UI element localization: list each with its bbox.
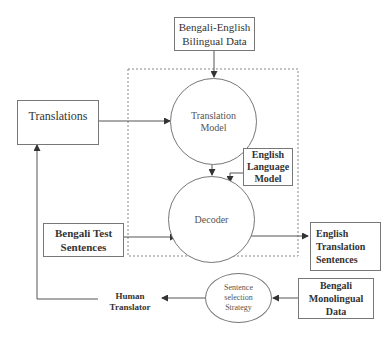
node-translations: Translations: [17, 100, 99, 145]
node-bilingual-data: Bengali-English Bilingual Data: [174, 17, 255, 51]
node-bengali-monolingual-data: Bengali Monolingual Data: [298, 278, 374, 319]
node-english-language-model: English Language Model: [243, 148, 293, 186]
node-sentence-selection-strategy: Sentence selection Strategy: [205, 273, 272, 323]
node-human-translator: Human Translator: [100, 291, 160, 313]
edge-human-to-translations: [37, 145, 98, 299]
node-bengali-test-sentences: Bengali Test Sentences: [43, 223, 124, 257]
node-decoder: Decoder: [168, 176, 255, 263]
node-english-translation-sentences: English Translation Sentences: [310, 222, 381, 271]
